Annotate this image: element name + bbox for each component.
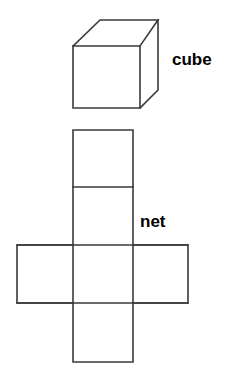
cube-solid (73, 20, 158, 108)
net-outline (17, 130, 188, 362)
cube-front-face (73, 46, 140, 108)
net-label: net (140, 213, 166, 230)
figure-canvas: cube net (0, 0, 227, 382)
cube-label: cube (172, 51, 212, 68)
cube-net (17, 130, 188, 362)
